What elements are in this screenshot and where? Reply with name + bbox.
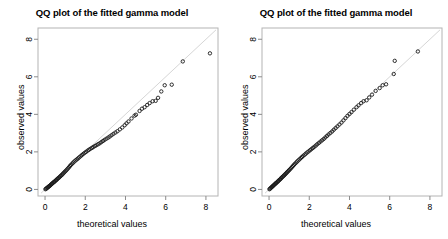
data-point — [384, 83, 387, 86]
panel-left-y-tick-label: 2 — [24, 149, 34, 154]
data-point — [393, 59, 396, 62]
panel-left: QQ plot of the fitted gamma model 024680… — [0, 0, 224, 239]
panel-left-x-tick-label: 8 — [204, 202, 209, 212]
panel-right-x-tick-label: 0 — [267, 202, 272, 212]
panel-left-reference-line — [41, 30, 216, 193]
panel-left-x-tick-label: 6 — [163, 202, 168, 212]
panel-right-y-tick-label: 8 — [248, 37, 258, 42]
panel-left-x-tick-label: 2 — [83, 202, 88, 212]
qq-plot-figure: QQ plot of the fitted gamma model 024680… — [0, 0, 448, 239]
data-point — [208, 52, 211, 55]
panel-right-x-tick-label: 4 — [347, 202, 352, 212]
panel-right-y-tick-label: 0 — [248, 187, 258, 192]
data-point — [381, 84, 384, 87]
panel-right-y-axis-title: observed values — [240, 84, 250, 150]
panel-right: QQ plot of the fitted gamma model 024680… — [224, 0, 448, 239]
panel-left-y-tick-label: 6 — [24, 74, 34, 79]
panel-left-y-axis-title: observed values — [16, 84, 26, 150]
data-point — [170, 83, 173, 86]
panel-left-x-axis-title: theoretical values — [0, 219, 224, 229]
panel-left-x-tick-label: 0 — [43, 202, 48, 212]
panel-right-x-tick-label: 8 — [428, 202, 433, 212]
panel-right-y-tick-label: 6 — [248, 74, 258, 79]
data-point — [163, 84, 166, 87]
panel-right-plot-area: 0246802468 — [224, 0, 448, 239]
panel-left-y-tick-label: 0 — [24, 187, 34, 192]
panel-right-x-tick-label: 6 — [387, 202, 392, 212]
panel-left-x-tick-label: 4 — [123, 202, 128, 212]
panel-right-x-axis-title: theoretical values — [224, 219, 448, 229]
data-point — [160, 90, 163, 93]
data-point — [156, 96, 159, 99]
panel-right-y-tick-label: 2 — [248, 149, 258, 154]
data-point — [130, 117, 133, 120]
panel-right-x-tick-label: 2 — [307, 202, 312, 212]
panel-left-data-points — [44, 52, 212, 191]
data-point — [378, 86, 381, 89]
panel-left-plot-area: 0246802468 — [0, 0, 224, 239]
panel-left-y-tick-label: 8 — [24, 37, 34, 42]
